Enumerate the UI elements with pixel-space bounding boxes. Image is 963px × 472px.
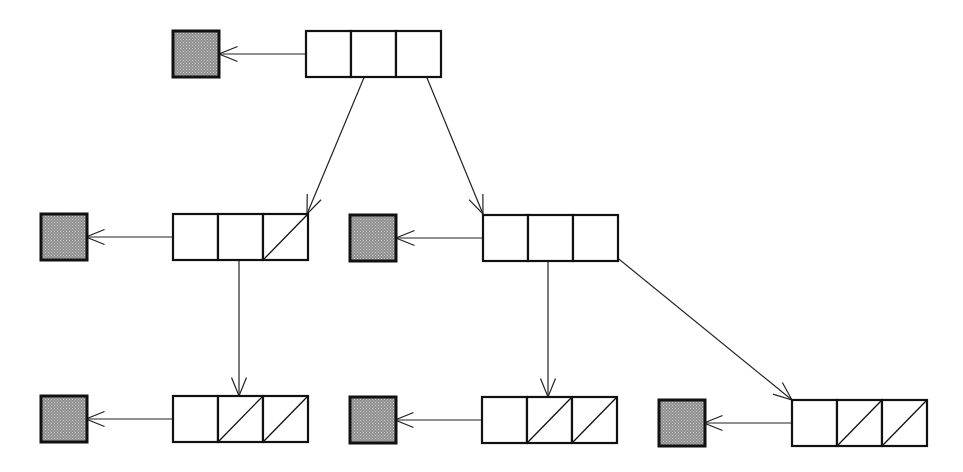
edge-right-to-right-left [541,240,556,397]
data-pointer-cell [482,397,527,443]
node-right [483,215,618,261]
pointer-line [593,238,792,400]
data-pointer-cell [792,400,837,446]
right-child-cell [573,215,618,261]
pointer-line [418,56,483,214]
data-square-right-left-data [350,397,396,443]
data-pointer-cell [306,31,351,77]
nodes-layer [173,31,927,446]
node-left-left [173,396,308,442]
data-pointer-cell [173,396,218,442]
node-right-right [792,400,927,446]
left-child-cell [528,215,573,261]
edge-left-to-left-left [232,239,247,396]
data-square-left-data [41,214,87,260]
data-pointer-cell [173,214,218,260]
left-child-cell [218,214,263,260]
left-child-cell [351,31,396,77]
edge-right-to-right-right [593,238,792,400]
data-square-left-left-data [41,396,87,442]
tree-diagram [0,0,963,472]
right-child-cell [396,31,441,77]
edge-root-to-right [418,56,483,214]
data-square-right-right-data [659,400,705,446]
data-pointer-cell [483,215,528,261]
data-square-root-data [173,31,219,77]
pointer-line [307,56,373,214]
data-square-right-data [350,215,396,261]
node-root [306,31,441,77]
node-right-left [482,397,617,443]
node-left [173,214,308,260]
edge-root-to-left [307,56,373,214]
